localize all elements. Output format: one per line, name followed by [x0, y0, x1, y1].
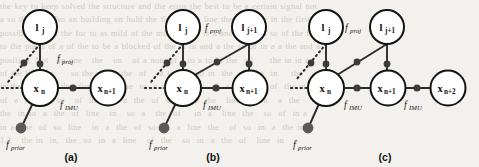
label-b-fproj-sub: proj: [209, 27, 221, 34]
label-a-fproj-main: f: [57, 53, 61, 64]
factor-b-proj-2: [246, 61, 253, 68]
node-a-pose-xn1: x n+1: [91, 71, 126, 106]
panel-c: l j l j+1 x n x n+1 x n+2 f: [291, 10, 466, 163]
label-c-fimu-2-main: f: [404, 99, 408, 110]
label-b-fimu-sub: IMU: [207, 104, 222, 111]
node-b-pose-xn: x n: [165, 70, 201, 106]
node-c-landmark-lj-sub: j: [327, 27, 330, 35]
node-a-landmark-lj-sub: j: [41, 27, 44, 35]
factor-b-proj-3: [214, 59, 221, 66]
label-c-fimu-2-sub: IMU: [408, 104, 423, 111]
label-a-fprior-sub: prior: [10, 144, 25, 151]
factor-graph-svg: .edge{stroke:#2b2b2b;stroke-width:1.9;fi…: [0, 0, 479, 167]
node-b-pose-xn-label: x: [176, 83, 182, 94]
factor-c-proj-3: [354, 59, 361, 66]
label-c-fimu-1-main: f: [344, 99, 348, 110]
label-b-fproj-main: f: [205, 22, 209, 33]
node-b-landmark-lj-circle: [166, 10, 200, 44]
node-c-pose-xn-sub: n: [327, 88, 331, 96]
node-c-pose-xn1-sub: n+1: [384, 88, 396, 96]
node-b-landmark-lj-label: l: [179, 22, 182, 33]
node-c-landmark-lj: l j: [309, 10, 343, 44]
label-b-fimu-main: f: [203, 99, 207, 110]
factor-a-proj-1: [37, 61, 44, 68]
node-c-pose-xn1: x n+1: [371, 71, 406, 106]
label-a-fimu: f IMU: [60, 99, 79, 111]
label-a-fprior-main: f: [6, 139, 10, 150]
label-c-fimu-2: f IMU: [404, 99, 423, 111]
node-c-landmark-lj-label: l: [322, 22, 325, 33]
factor-graph-figure: .edge{stroke:#2b2b2b;stroke-width:1.9;fi…: [0, 0, 479, 167]
node-b-pose-xn1-sub: n+1: [246, 88, 258, 96]
factor-c-imu-1: [353, 84, 360, 91]
factor-a-imu-1: [69, 84, 76, 91]
factor-c-proj-offscreen: [308, 60, 315, 67]
node-c-pose-xn-circle: [308, 70, 344, 106]
node-c-landmark-lj-circle: [309, 10, 343, 44]
node-a-pose-xn-circle: [22, 70, 58, 106]
node-a-pose-xn-label: x: [33, 83, 39, 94]
label-c-fproj-sub: proj: [349, 27, 361, 34]
label-c-fprior-sub: prior: [297, 144, 312, 151]
node-b-pose-xn1-label: x: [239, 83, 245, 94]
label-c-fproj: f proj: [345, 22, 361, 34]
label-b-fprior: f prior: [149, 139, 168, 151]
label-c-fimu-1: f IMU: [344, 99, 363, 111]
label-c-fprior: f prior: [293, 139, 312, 151]
node-a-pose-xn-sub: n: [41, 88, 45, 96]
node-b-landmark-lj1-label: l: [242, 22, 245, 33]
factor-c-proj-1: [323, 61, 330, 68]
factor-b-imu-1: [212, 84, 219, 91]
label-a-fimu-main: f: [60, 99, 64, 110]
node-c-landmark-lj1: l j+1: [370, 10, 404, 44]
factor-a-prior: [16, 123, 27, 134]
factor-a-proj-offscreen: [21, 60, 28, 67]
panel-b-caption: (b): [206, 151, 219, 163]
label-a-fproj: f proj: [57, 53, 73, 65]
label-c-fproj-main: f: [345, 22, 349, 33]
node-b-pose-xn-sub: n: [184, 88, 188, 96]
node-c-pose-xn: x n: [308, 70, 344, 106]
node-a-pose-xn: x n: [22, 70, 58, 106]
node-b-landmark-lj1-sub: j+1: [246, 27, 257, 35]
label-a-fimu-sub: IMU: [64, 104, 79, 111]
factor-b-proj-offscreen: [164, 60, 171, 67]
node-b-landmark-lj1: l j+1: [232, 10, 266, 44]
panel-a-caption: (a): [65, 151, 78, 163]
panel-c-caption: (c): [379, 151, 392, 163]
node-c-pose-xn1-label: x: [377, 83, 383, 94]
node-c-pose-xn-label: x: [319, 83, 325, 94]
node-c-pose-xn2-label: x: [437, 83, 443, 94]
node-b-landmark-lj: l j: [166, 10, 200, 44]
label-b-fimu: f IMU: [203, 99, 222, 111]
node-b-pose-xn-circle: [165, 70, 201, 106]
factor-c-imu-2: [413, 84, 420, 91]
factor-c-proj-2: [384, 61, 391, 68]
label-c-fimu-1-sub: IMU: [348, 104, 363, 111]
factor-c-prior: [303, 123, 314, 134]
node-c-pose-xn2: x n+2: [431, 71, 466, 106]
node-b-landmark-lj-sub: j: [184, 27, 187, 35]
node-a-landmark-lj: l j: [23, 10, 57, 44]
label-a-fproj-sub: proj: [61, 58, 73, 65]
node-c-landmark-lj1-label: l: [380, 22, 383, 33]
node-c-pose-xn2-sub: n+2: [444, 88, 456, 96]
label-b-fproj: f proj: [205, 22, 221, 34]
node-a-landmark-lj-label: l: [36, 22, 39, 33]
label-c-fprior-main: f: [293, 139, 297, 150]
factor-b-proj-1: [180, 61, 187, 68]
label-b-fprior-sub: prior: [153, 144, 168, 151]
node-c-landmark-lj1-sub: j+1: [384, 27, 395, 35]
factor-b-prior: [159, 123, 170, 134]
panel-b: l j l j+1 x n x n+1 f proj f IMU: [145, 10, 268, 163]
label-a-fprior: f prior: [6, 139, 25, 151]
node-a-pose-xn1-sub: n+1: [104, 88, 116, 96]
panel-a: l j x n x n+1 f proj f IMU f prior: [2, 10, 126, 163]
node-a-landmark-lj-circle: [23, 10, 57, 44]
node-b-pose-xn1: x n+1: [233, 71, 268, 106]
node-a-pose-xn1-label: x: [97, 83, 103, 94]
label-b-fprior-main: f: [149, 139, 153, 150]
